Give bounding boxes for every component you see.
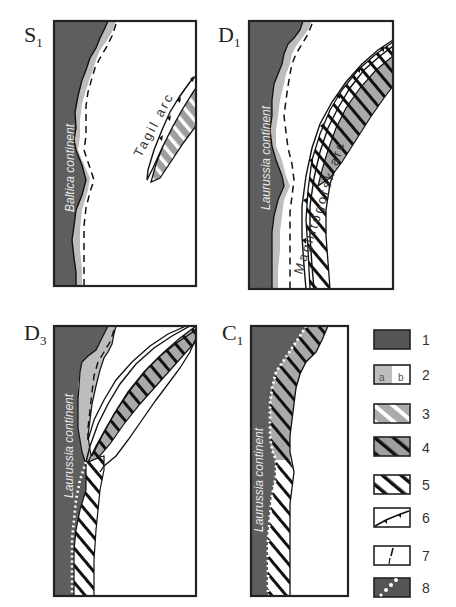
panel-c1: C1 Laurussia continent [222, 320, 348, 596]
panel-s1: S1 Baltica continent Tagil arc [24, 21, 196, 286]
svg-text:4: 4 [422, 440, 430, 456]
svg-text:3: 3 [422, 406, 430, 422]
legend: 1 a b 2 3 4 5 [374, 330, 430, 597]
panel-d3-label: D3 [24, 320, 46, 348]
legend-item-2: a b 2 [374, 365, 430, 384]
continent-label: Laurussia continent [252, 427, 266, 532]
svg-text:5: 5 [422, 477, 430, 493]
svg-text:8: 8 [422, 580, 430, 596]
panel-d3: D3 Laurussia continent [24, 320, 196, 596]
legend-item-7: 7 [374, 546, 430, 565]
legend-item-6: 6 [374, 508, 430, 527]
panel-c1-label: C1 [222, 320, 243, 348]
svg-text:1: 1 [422, 332, 430, 348]
svg-text:2: 2 [422, 367, 430, 383]
continent-label: Baltica continent [63, 123, 77, 212]
diagram-canvas: S1 Baltica continent Tagil arc [0, 0, 456, 607]
continent-label: Laurussia continent [62, 393, 76, 498]
continent-label: Laurussia continent [259, 105, 273, 210]
svg-text:6: 6 [422, 510, 430, 526]
panel-d1: D1 Lauru [218, 21, 393, 289]
legend-item-4: 4 [374, 437, 430, 456]
legend-item-3: 3 [374, 404, 430, 423]
legend-item-1: 1 [374, 330, 430, 349]
legend-item-8: 8 [374, 578, 430, 597]
legend-item-5: 5 [374, 475, 430, 494]
svg-text:b: b [398, 372, 404, 383]
panel-s1-label: S1 [24, 22, 43, 50]
panel-d1-label: D1 [218, 22, 240, 50]
svg-text:a: a [379, 372, 385, 383]
svg-text:7: 7 [422, 548, 430, 564]
